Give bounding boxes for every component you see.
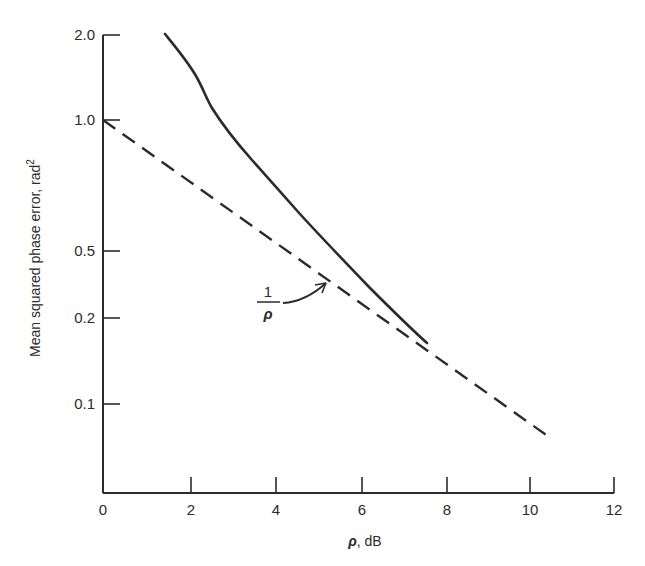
y-axis-title-text: Mean squared phase error, rad bbox=[27, 165, 43, 357]
y-tick-label: 0.2 bbox=[74, 309, 95, 326]
annotation-arrow-icon bbox=[283, 283, 326, 303]
x-axis: 024681012 bbox=[99, 477, 623, 518]
x-tick-label: 0 bbox=[99, 501, 107, 518]
y-tick-label: 2.0 bbox=[74, 26, 95, 43]
y-axis-title-superscript: 2 bbox=[25, 159, 36, 165]
x-tick-label: 6 bbox=[358, 501, 366, 518]
y-axis-title: Mean squared phase error, rad2 bbox=[25, 159, 43, 357]
annotation-one-over-rho: 1 ρ bbox=[257, 283, 326, 322]
x-tick-label: 10 bbox=[522, 501, 539, 518]
chart: 0.10.20.51.02.0 024681012 1 ρ Mean squar… bbox=[0, 0, 645, 566]
series-one-over-rho-line bbox=[103, 120, 549, 437]
x-tick-label: 12 bbox=[606, 501, 623, 518]
y-ticks: 0.10.20.51.02.0 bbox=[74, 26, 120, 412]
x-axis-title-unit: , dB bbox=[357, 533, 382, 549]
y-axis: 0.10.20.51.02.0 bbox=[74, 26, 120, 493]
x-tick-label: 2 bbox=[187, 501, 195, 518]
series-phase-error-curve bbox=[165, 34, 427, 343]
y-tick-label: 0.1 bbox=[74, 395, 95, 412]
annotation-denominator: ρ bbox=[262, 305, 272, 322]
x-ticks: 024681012 bbox=[99, 477, 623, 518]
x-axis-title: ρ, dB bbox=[347, 533, 381, 549]
y-tick-label: 1.0 bbox=[74, 111, 95, 128]
annotation-numerator: 1 bbox=[264, 283, 272, 300]
y-tick-label: 0.5 bbox=[74, 242, 95, 259]
x-tick-label: 4 bbox=[272, 501, 280, 518]
x-tick-label: 8 bbox=[443, 501, 451, 518]
